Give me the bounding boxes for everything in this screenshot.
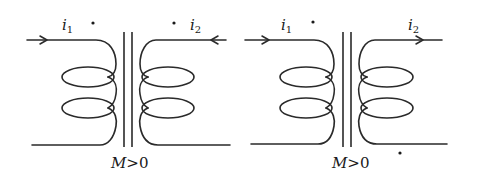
figure-left: i1 i2 M>0 [27,16,230,172]
primary-loop-2 [280,98,332,118]
primary-bottom-lead [251,108,334,144]
label-condition: M>0 [110,154,148,172]
polarity-dot-primary [91,21,94,24]
primary-loop-1 [280,67,332,87]
secondary-winding-right [359,36,447,144]
primary-bottom-lead [32,108,116,145]
secondary-winding-left [140,36,230,145]
primary-loop-1 [62,67,114,87]
label-condition: M>0 [331,154,369,172]
primary-winding-left [27,36,116,145]
label-i2: i2 [190,16,201,35]
secondary-loop-1 [361,67,413,87]
polarity-dot-secondary [398,151,401,154]
figure-right: i1 i2 M>0 [245,16,447,172]
secondary-top-lead [140,40,226,77]
secondary-bottom-lead [140,108,230,145]
coupled-inductors-diagram: i1 i2 M>0 i1 i2 [0,0,480,181]
primary-top-lead [27,40,116,77]
label-i1: i1 [281,16,292,35]
polarity-dot-secondary [172,21,175,24]
primary-top-lead [245,40,334,77]
primary-winding-right [245,36,334,144]
secondary-loop-2 [361,98,413,118]
label-i1: i1 [62,16,73,35]
polarity-dot-primary [311,20,314,23]
secondary-loop-2 [142,98,194,118]
secondary-bottom-lead [359,108,447,144]
primary-loop-2 [62,98,114,118]
secondary-loop-1 [142,67,194,87]
secondary-top-lead [359,40,442,77]
label-i2: i2 [408,16,419,35]
